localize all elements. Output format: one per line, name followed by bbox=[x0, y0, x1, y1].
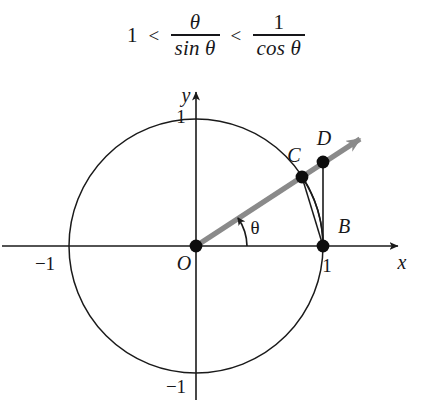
formula-middle-fraction: θ sin θ bbox=[171, 11, 220, 60]
angle-ray bbox=[196, 139, 360, 246]
point-b-dot bbox=[317, 240, 330, 253]
formula-middle-numerator: θ bbox=[184, 11, 207, 35]
formula-right-numerator: 1 bbox=[267, 11, 290, 35]
formula-middle-denominator: sin θ bbox=[171, 36, 220, 60]
point-label-b: B bbox=[338, 215, 350, 237]
formula-relation-2: < bbox=[229, 25, 244, 47]
point-label-o: O bbox=[177, 252, 191, 274]
point-label-c: C bbox=[287, 144, 301, 166]
formula-right-denominator: cos θ bbox=[253, 36, 306, 60]
formula-relation-1: < bbox=[147, 25, 162, 47]
point-o-dot bbox=[190, 240, 203, 253]
y-tick-label-negative-one: −1 bbox=[166, 376, 186, 397]
unit-circle-diagram: O B C D θ y x 1 −1 −1 1 bbox=[0, 66, 432, 403]
theta-angle-arc bbox=[238, 218, 247, 246]
theta-label: θ bbox=[250, 217, 259, 238]
y-tick-label-positive-one: 1 bbox=[176, 106, 186, 127]
point-c-dot bbox=[296, 171, 309, 184]
formula-left-term: 1 bbox=[127, 25, 138, 46]
chord-segment-cb bbox=[302, 177, 323, 246]
y-axis-label: y bbox=[180, 84, 191, 107]
formula-right-fraction: 1 cos θ bbox=[253, 11, 306, 60]
x-axis-label: x bbox=[397, 251, 407, 273]
point-d-dot bbox=[317, 156, 330, 169]
inequality-formula: 1 < θ sin θ < 1 cos θ bbox=[0, 4, 432, 66]
point-label-d: D bbox=[316, 127, 332, 149]
x-tick-label-negative-one: −1 bbox=[35, 253, 55, 274]
x-tick-label-positive-one: 1 bbox=[322, 255, 332, 276]
